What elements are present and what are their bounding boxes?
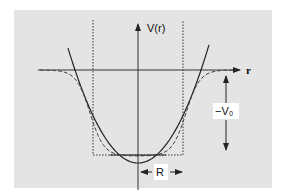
y-axis-label: V(r)	[147, 22, 165, 34]
depth-label: −V₀	[215, 105, 233, 117]
potential-well-diagram: V(r) r −V₀ R	[0, 0, 281, 196]
x-axis-label: r	[246, 64, 251, 76]
radius-label: R	[156, 166, 164, 178]
